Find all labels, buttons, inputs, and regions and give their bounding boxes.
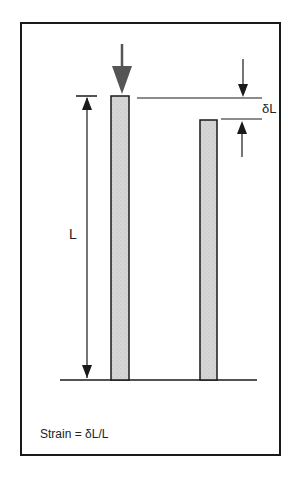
strain-diagram xyxy=(0,0,294,480)
strain-formula: Strain = δL/L xyxy=(40,427,108,441)
compressed-bar xyxy=(200,120,217,380)
length-label: L xyxy=(69,226,77,242)
original-bar xyxy=(111,96,129,380)
delta-length-label: δL xyxy=(262,101,276,116)
